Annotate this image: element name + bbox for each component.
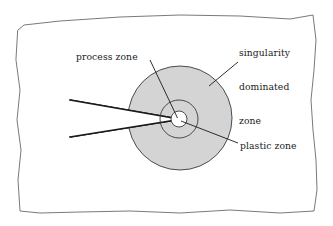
singularity-label-line-3: zone (239, 115, 290, 126)
singularity-label-line-2: dominated (239, 81, 290, 92)
process-zone-circle (171, 111, 187, 127)
plastic-zone-label: plastic zone (240, 140, 297, 151)
process-zone-label: process zone (76, 51, 138, 62)
singularity-dominated-zone-label: singularity dominated zone (239, 24, 290, 149)
singularity-label-line-1: singularity (239, 47, 290, 58)
crack-tip-zones-figure: singularity dominated zone process zone … (0, 0, 333, 226)
